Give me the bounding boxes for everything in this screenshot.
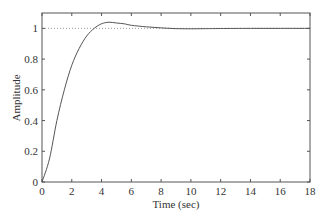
x-tick-label: 4: [99, 185, 105, 197]
plot-area: [42, 13, 310, 182]
x-tick-label: 16: [275, 185, 287, 197]
x-tick-label: 14: [245, 185, 257, 197]
x-tick-label: 8: [158, 185, 164, 197]
y-tick-label: 0.4: [24, 115, 38, 127]
y-tick-label: 0: [33, 176, 39, 188]
x-tick-label: 18: [305, 185, 317, 197]
y-tick-label: 1: [33, 22, 39, 34]
y-tick-label: 0.8: [24, 53, 38, 65]
y-axis-ticks: 00.20.40.60.81: [24, 22, 310, 188]
x-axis-label: Time (sec): [153, 198, 200, 211]
step-response-chart: 024681012141618 00.20.40.60.81 Time (sec…: [0, 0, 326, 220]
y-tick-label: 0.2: [24, 145, 38, 157]
y-tick-label: 0.6: [24, 84, 38, 96]
axes-frame: [42, 13, 310, 182]
step-response-curve: [42, 22, 310, 182]
y-axis-label: Amplitude: [10, 74, 22, 121]
x-tick-label: 12: [215, 185, 226, 197]
x-tick-label: 6: [129, 185, 135, 197]
x-tick-label: 10: [185, 185, 197, 197]
x-tick-label: 0: [39, 185, 45, 197]
x-axis-ticks: 024681012141618: [39, 13, 316, 197]
x-tick-label: 2: [69, 185, 75, 197]
